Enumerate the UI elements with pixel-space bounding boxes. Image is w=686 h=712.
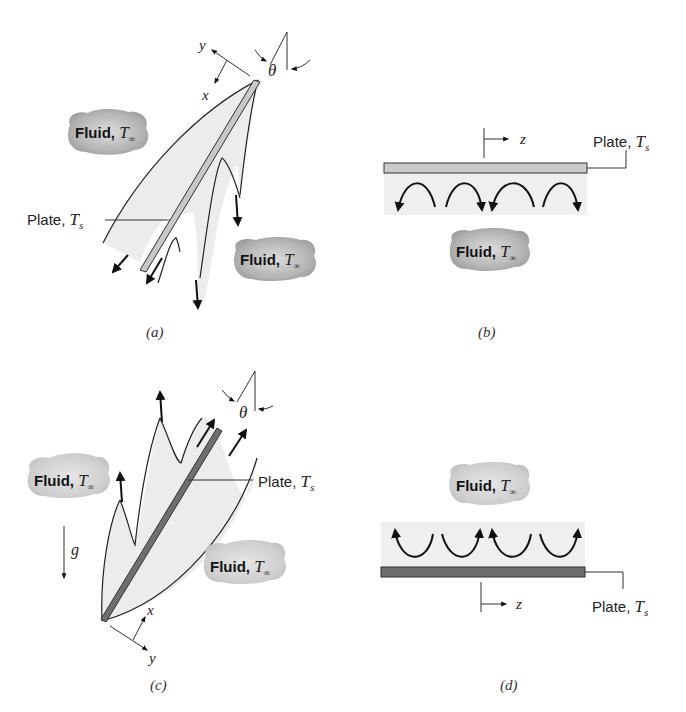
plate-label: Plate, Ts (258, 472, 314, 493)
svg-text:Fluid, T∞: Fluid, T∞ (456, 242, 516, 263)
flow-arrow (120, 473, 122, 502)
caption-a: (a) (146, 324, 164, 341)
svg-text:Fluid, T∞: Fluid, T∞ (240, 250, 300, 271)
svg-text:Fluid, T∞: Fluid, T∞ (75, 123, 135, 144)
z-axis: z (484, 128, 526, 158)
plate-label: Plate, Ts (27, 210, 83, 231)
plate-label: Plate, Ts (592, 597, 648, 618)
z-axis: z (481, 582, 522, 612)
flow-arrow (229, 430, 246, 456)
plate-label: Plate, Ts (593, 132, 649, 153)
svg-text:y: y (147, 650, 156, 666)
caption-d: (d) (500, 677, 518, 694)
panel-d: Plate, Ts z Fluid, T∞ (d) (381, 462, 648, 694)
svg-text:Fluid, T∞: Fluid, T∞ (456, 476, 516, 497)
boundary-layer (381, 522, 585, 567)
caption-c: (c) (150, 677, 167, 694)
fluid-cloud: Fluid, T∞ (449, 462, 530, 505)
caption-b: (b) (478, 324, 496, 341)
angle-indicator: θ (222, 371, 273, 422)
svg-text:Fluid, T∞: Fluid, T∞ (34, 471, 94, 492)
convection-figure: Plate, Ts y x θ Fluid, T∞ Fluid, T∞ (0, 0, 686, 712)
svg-text:Fluid, T∞: Fluid, T∞ (210, 557, 270, 578)
svg-text:g: g (71, 541, 79, 559)
svg-text:θ: θ (239, 403, 247, 422)
flow-arrow (236, 195, 238, 225)
flow-arrow (160, 392, 162, 422)
svg-text:z: z (515, 596, 522, 612)
svg-text:x: x (146, 602, 154, 618)
panel-c: Plate, Ts θ g x y Fluid, T∞ (28, 371, 315, 694)
svg-text:x: x (201, 87, 209, 103)
panel-b: Plate, Ts z Fluid, T∞ (b) (384, 128, 649, 341)
panel-a: Plate, Ts y x θ Fluid, T∞ Fluid, T∞ (27, 32, 316, 341)
boundary-layer (384, 173, 587, 215)
plate (384, 163, 587, 173)
fluid-cloud: Fluid, T∞ (204, 540, 286, 584)
fluid-cloud: Fluid, T∞ (28, 453, 110, 498)
svg-text:θ: θ (268, 61, 276, 80)
svg-text:y: y (197, 37, 206, 53)
flow-arrow (196, 280, 198, 308)
fluid-cloud: Fluid, T∞ (68, 109, 148, 155)
plate (381, 567, 585, 577)
gravity-arrow: g (64, 526, 79, 578)
fluid-cloud: Fluid, T∞ (234, 237, 316, 281)
flow-arrow (113, 255, 128, 272)
fluid-cloud: Fluid, T∞ (450, 228, 530, 271)
svg-text:z: z (519, 131, 526, 147)
angle-indicator: θ (255, 32, 310, 80)
